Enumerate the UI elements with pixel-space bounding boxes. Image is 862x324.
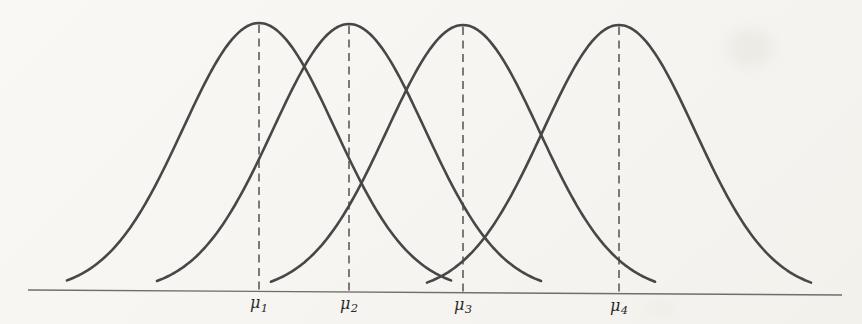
distribution-chart: μ1μ2μ3μ4 [0,0,862,324]
mean-label-4: μ4 [610,296,628,318]
mean-label-2: μ2 [340,294,358,316]
scan-smudge-1 [726,28,774,68]
mean-labels-layer: μ1μ2μ3μ4 [250,293,628,317]
normal-distributions-figure: μ1μ2μ3μ4 [0,0,862,324]
curves-layer [67,23,811,283]
mean-label-1: μ1 [250,293,268,315]
scan-smudge-2 [642,300,678,316]
x-axis [28,290,842,295]
mean-label-3: μ3 [454,295,472,317]
scan-artifacts-layer [642,28,774,316]
